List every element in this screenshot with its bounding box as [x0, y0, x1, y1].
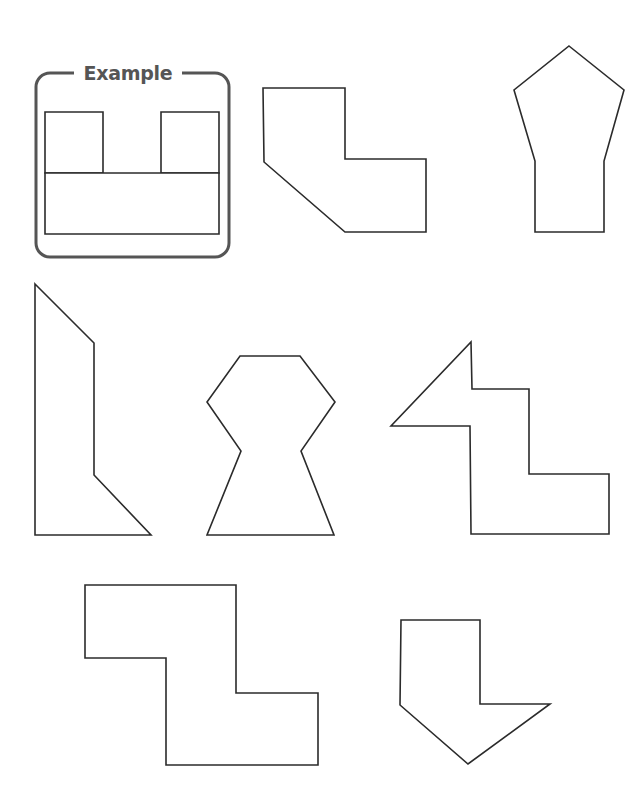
shape-tall-slant — [35, 284, 151, 535]
shape-step-arrow — [391, 342, 609, 534]
example-right-square — [161, 112, 219, 173]
example-title: Example — [70, 58, 186, 88]
shape-keyhole — [207, 356, 335, 535]
example-left-square — [45, 112, 103, 173]
shape-down-arrow — [400, 620, 550, 764]
worksheet-canvas — [0, 0, 644, 805]
shape-house — [514, 46, 624, 232]
shape-bent-l — [263, 88, 426, 232]
shape-z — [85, 585, 318, 765]
example-box — [36, 66, 229, 257]
example-bottom-rectangle — [45, 173, 219, 234]
